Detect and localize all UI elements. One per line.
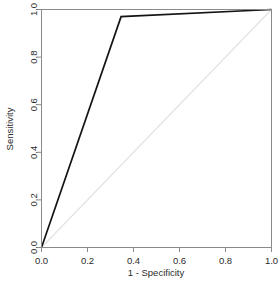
- x-axis-title: 1 - Specificity: [128, 267, 185, 278]
- y-axis-ticks: 0.00.20.40.60.81.0: [28, 3, 42, 254]
- y-tick-label: 0.6: [28, 98, 39, 111]
- x-tick-label: 0.0: [35, 255, 48, 266]
- roc-plot-canvas: 0.00.20.40.60.81.0 0.00.20.40.60.81.0 1 …: [0, 0, 280, 282]
- x-tick-label: 0.2: [81, 255, 94, 266]
- y-tick-label: 0.8: [28, 50, 39, 63]
- x-tick-label: 0.6: [173, 255, 186, 266]
- y-tick-label: 0.0: [28, 241, 39, 254]
- y-tick-label: 0.4: [28, 146, 39, 159]
- x-axis-ticks: 0.00.20.40.60.81.0: [35, 248, 278, 266]
- y-axis-title: Sensitivity: [4, 107, 15, 150]
- y-tick-label: 1.0: [28, 3, 39, 16]
- x-tick-label: 0.4: [127, 255, 140, 266]
- x-tick-label: 1.0: [265, 255, 278, 266]
- y-tick-label: 0.2: [28, 193, 39, 206]
- x-tick-label: 0.8: [219, 255, 232, 266]
- roc-curve-figure: 0.00.20.40.60.81.0 0.00.20.40.60.81.0 1 …: [0, 0, 280, 282]
